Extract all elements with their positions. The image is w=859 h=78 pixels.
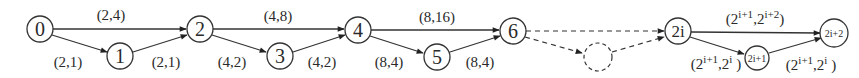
graph-diagram: 0 1 2 3 4 5 6 2i [0,0,859,78]
edge-6-dashed-node [525,37,582,53]
node-1: 1 [107,43,133,69]
graph-svg: 0 1 2 3 4 5 6 2i [0,0,859,78]
edge-label-4-6: (8,16) [419,9,455,26]
edge-label-4-5: (8,4) [375,54,404,71]
edge-4-5 [370,36,423,53]
node-2: 2 [187,16,213,42]
node-6-label: 6 [508,20,518,42]
edge-2i-2i1 [690,37,744,54]
node-0: 0 [27,16,53,42]
edge-label-5-6: (8,4) [466,54,495,71]
node-2i-plus-1: 2i+1 [745,46,769,70]
edge-2i1-2i2 [769,38,821,53]
edge-label-3-4: (4,2) [308,54,337,71]
edge-label-2i1-2i2: (2i+1,2i ) [786,54,836,74]
edge-dashed-node-2i [612,37,664,52]
node-0-label: 0 [35,18,45,40]
node-2i-plus-1-label: 2i+1 [748,53,766,64]
edge-label-0-1: (2,1) [54,54,83,71]
node-6: 6 [500,18,526,44]
edge-label-2-4: (4,8) [264,8,293,25]
edge-1-2 [133,35,187,52]
edge-3-4 [293,35,345,52]
edge-2-3 [212,35,266,52]
node-2i-plus-2-label: 2i+2 [825,28,843,39]
node-1-label: 1 [115,45,125,67]
node-2i-label: 2i [671,22,685,41]
node-4-label: 4 [353,19,363,41]
node-5-label: 5 [432,46,442,68]
node-2-label: 2 [195,18,205,40]
node-3-label: 3 [275,45,285,67]
node-5: 5 [424,44,450,70]
edge-label-2i-2i2: (2i+1,2i+2) [726,8,784,28]
edge-label-0-2: (2,4) [97,7,126,24]
node-3: 3 [267,43,293,69]
node-2i-plus-2: 2i+2 [820,19,848,47]
node-2i: 2i [665,18,691,44]
edge-2i-2i2 [691,32,820,33]
edge-label-2-3: (4,2) [218,54,247,71]
edge-label-1-2: (2,1) [152,54,181,71]
node-dashed-placeholder [584,43,612,71]
edge-5-6 [450,36,500,52]
edge-0-1 [52,35,107,52]
edge-label-2i-2i1: (2i+1,2i ) [691,53,741,73]
node-4: 4 [345,17,371,43]
